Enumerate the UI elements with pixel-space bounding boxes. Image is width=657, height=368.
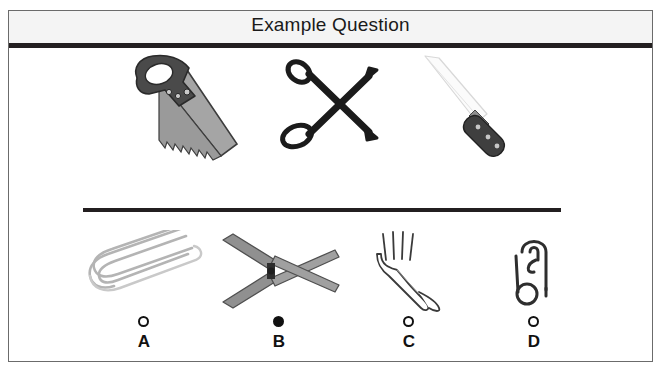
hedge-shears-icon <box>209 230 349 312</box>
question-body: A <box>9 48 652 356</box>
options-row: A <box>9 230 652 356</box>
radio-option-b[interactable] <box>273 316 284 327</box>
option-label-a: A <box>74 332 214 352</box>
stem-row <box>9 48 652 178</box>
paper-clip-icon <box>74 230 214 312</box>
option-c[interactable]: C <box>339 230 479 356</box>
stem-item-handsaw <box>109 48 259 168</box>
option-label-b: B <box>209 332 349 352</box>
question-card: Example Question <box>8 10 653 362</box>
option-a[interactable]: A <box>74 230 214 356</box>
handsaw-icon <box>109 48 259 168</box>
option-label-d: D <box>464 332 604 352</box>
stem-item-knife <box>409 48 559 168</box>
radio-option-c[interactable] <box>403 316 414 327</box>
safety-pin-icon <box>464 230 604 312</box>
fork-icon <box>339 230 479 312</box>
option-b[interactable]: B <box>209 230 349 356</box>
stem-item-scissors <box>265 48 415 168</box>
option-label-c: C <box>339 332 479 352</box>
radio-option-d[interactable] <box>528 316 539 327</box>
radio-option-a[interactable] <box>138 316 149 327</box>
section-divider <box>83 208 561 212</box>
option-d[interactable]: D <box>464 230 604 356</box>
question-header: Example Question <box>9 11 652 48</box>
page-title: Example Question <box>9 14 652 36</box>
